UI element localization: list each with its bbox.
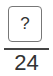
denominator: 24 [0, 52, 53, 74]
numerator-input-box[interactable]: ? [8, 6, 42, 42]
numerator-placeholder: ? [20, 14, 29, 34]
